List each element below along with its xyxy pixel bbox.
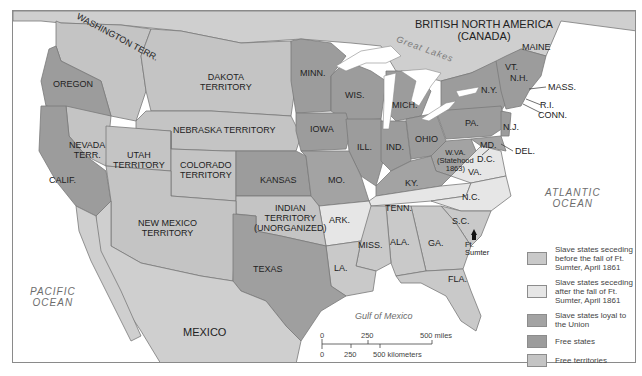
scale-bar: 0 250 500 miles 0 250 500 kilometers bbox=[320, 331, 460, 363]
label-nebraska: NEBRASKA TERRITORY bbox=[173, 125, 276, 135]
legend-item-seceding-after: Slave states seceding after the fall of … bbox=[527, 278, 635, 305]
legend-item-free-territories: Free territories bbox=[527, 354, 635, 367]
label-nj: N.J. bbox=[503, 122, 519, 132]
label-ark: ARK. bbox=[329, 215, 350, 225]
label-sc: S.C. bbox=[452, 216, 470, 226]
legend-item-free-states: Free states bbox=[527, 335, 635, 348]
label-pa: PA. bbox=[465, 118, 479, 128]
legend-swatch-free-states bbox=[527, 335, 547, 348]
legend: Slave states seceding before the fall of… bbox=[527, 245, 635, 373]
lake-superior bbox=[336, 46, 401, 71]
legend-label: Slave states loyal to the Union bbox=[555, 311, 635, 329]
label-iowa: IOWA bbox=[310, 124, 334, 134]
label-mo: MO. bbox=[328, 175, 345, 185]
label-gulf: Gulf of Mexico bbox=[355, 311, 413, 321]
label-ga: GA. bbox=[428, 238, 444, 248]
label-nh: N.H. bbox=[510, 73, 528, 83]
scale-km-250: 250 bbox=[344, 350, 357, 359]
scale-miles-250: 250 bbox=[361, 331, 374, 340]
scale-km-0: 0 bbox=[320, 350, 324, 359]
label-ohio: OHIO bbox=[415, 134, 438, 144]
label-kansas: KANSAS bbox=[260, 175, 297, 185]
label-ft-sumter: Ft. Sumter bbox=[465, 241, 489, 257]
label-miss: MISS. bbox=[358, 240, 383, 250]
label-ill: ILL. bbox=[357, 142, 372, 152]
legend-label: Slave states seceding after the fall of … bbox=[555, 278, 635, 305]
label-ri: R.I. bbox=[540, 100, 554, 110]
label-maine: MAINE bbox=[522, 42, 551, 52]
scale-km-500: 500 kilometers bbox=[373, 350, 422, 359]
label-texas: TEXAS bbox=[253, 264, 283, 274]
region-kansas bbox=[236, 151, 311, 196]
label-dc: D.C. bbox=[477, 154, 495, 164]
label-calif: CALIF. bbox=[49, 175, 76, 185]
label-dakota: DAKOTA TERRITORY bbox=[200, 72, 252, 92]
legend-item-seceding-before: Slave states seceding before the fall of… bbox=[527, 245, 635, 272]
legend-label: Free states bbox=[555, 337, 595, 346]
region-florida bbox=[396, 269, 481, 331]
label-fla: FLA. bbox=[448, 274, 467, 284]
label-canada: BRITISH NORTH AMERICA (CANADA) bbox=[415, 18, 553, 42]
scale-miles-500: 500 miles bbox=[420, 331, 452, 340]
label-utah: UTAH TERRITORY bbox=[113, 150, 165, 170]
label-mexico: MEXICO bbox=[183, 326, 226, 338]
label-ind: IND. bbox=[386, 142, 404, 152]
label-atlantic: ATLANTIC OCEAN bbox=[545, 187, 601, 209]
legend-swatch-seceding-before bbox=[527, 252, 547, 265]
label-va: VA. bbox=[468, 167, 482, 177]
label-tenn: TENN. bbox=[385, 203, 412, 213]
label-wis: WIS. bbox=[345, 90, 365, 100]
label-nevada: NEVADA TERR. bbox=[69, 140, 105, 160]
label-colorado: COLORADO TERRITORY bbox=[180, 160, 232, 180]
label-minn: MINN. bbox=[300, 68, 326, 78]
leader-ri bbox=[526, 99, 541, 105]
label-ny: N.Y. bbox=[481, 85, 497, 95]
legend-item-slave-loyal: Slave states loyal to the Union bbox=[527, 311, 635, 329]
label-oregon: OREGON bbox=[53, 79, 93, 89]
label-ala: ALA. bbox=[390, 237, 410, 247]
legend-swatch-free-territories bbox=[527, 354, 547, 367]
label-pacific: PACIFIC OCEAN bbox=[30, 286, 76, 308]
label-nc: N.C. bbox=[462, 192, 480, 202]
label-ky: KY. bbox=[405, 178, 418, 188]
label-la: LA. bbox=[334, 263, 348, 273]
label-mich: MICH. bbox=[392, 100, 418, 110]
label-vt: VT. bbox=[505, 62, 518, 72]
label-md: MD. bbox=[480, 140, 497, 150]
legend-swatch-seceding-after bbox=[527, 285, 547, 298]
legend-label: Free territories bbox=[555, 356, 607, 365]
legend-swatch-slave-loyal bbox=[527, 314, 547, 327]
label-conn: CONN. bbox=[538, 110, 567, 120]
label-indian-territory: INDIAN TERRITORY (UNORGANIZED) bbox=[254, 203, 327, 233]
label-del: DEL. bbox=[515, 146, 535, 156]
legend-label: Slave states seceding before the fall of… bbox=[555, 245, 635, 272]
label-mass: MASS. bbox=[548, 82, 576, 92]
label-new-mexico: NEW MEXICO TERRITORY bbox=[138, 218, 197, 238]
scale-miles-0: 0 bbox=[320, 331, 324, 340]
